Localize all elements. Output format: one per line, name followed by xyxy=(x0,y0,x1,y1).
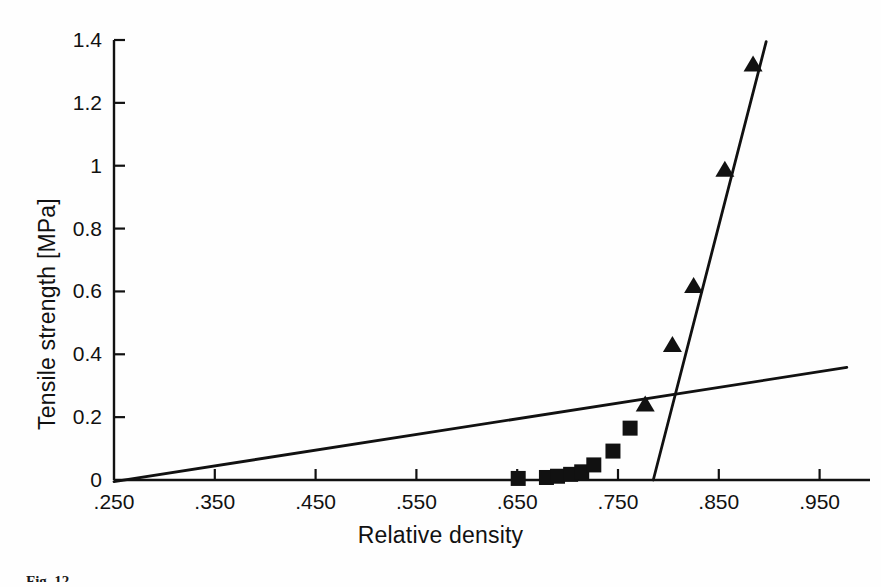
x-tick-label: .450 xyxy=(295,490,336,514)
x-tick-label: .250 xyxy=(94,490,135,514)
x-axis-title: Relative density xyxy=(0,522,881,549)
y-tick-label: 0.6 xyxy=(73,279,102,303)
square-data-point xyxy=(605,444,620,459)
x-tick-label: .750 xyxy=(598,490,639,514)
y-tick-label: 0 xyxy=(90,468,102,492)
fit-lines-group xyxy=(114,42,847,482)
y-tick-label: 0.8 xyxy=(73,217,102,241)
x-tick-label: .550 xyxy=(396,490,437,514)
y-tick-label: 1 xyxy=(90,154,102,178)
axes-group xyxy=(114,40,870,480)
square-data-point xyxy=(586,457,601,472)
figure-caption: Fig. 12 xyxy=(26,566,69,582)
shallow-fit-line xyxy=(114,367,847,481)
x-tick-label: .850 xyxy=(698,490,739,514)
triangle-data-point xyxy=(684,277,703,293)
x-tick-label: .350 xyxy=(194,490,235,514)
y-axis-title: Tensile strength [MPa] xyxy=(34,198,61,430)
square-data-point xyxy=(623,421,638,436)
y-tick-label: 1.4 xyxy=(73,28,102,52)
data-markers-group xyxy=(511,56,763,486)
square-data-point xyxy=(511,471,526,486)
square-data-point xyxy=(550,469,565,484)
triangle-data-point xyxy=(715,161,734,177)
figure-container: Tensile strength [MPa] Relative density … xyxy=(0,0,881,587)
triangle-data-point xyxy=(663,336,682,352)
x-tick-label: .650 xyxy=(497,490,538,514)
steep-fit-line xyxy=(653,42,766,480)
x-tick-label: .950 xyxy=(799,490,840,514)
y-tick-label: 0.4 xyxy=(73,342,102,366)
y-tick-label: 1.2 xyxy=(73,91,102,115)
y-tick-label: 0.2 xyxy=(73,405,102,429)
